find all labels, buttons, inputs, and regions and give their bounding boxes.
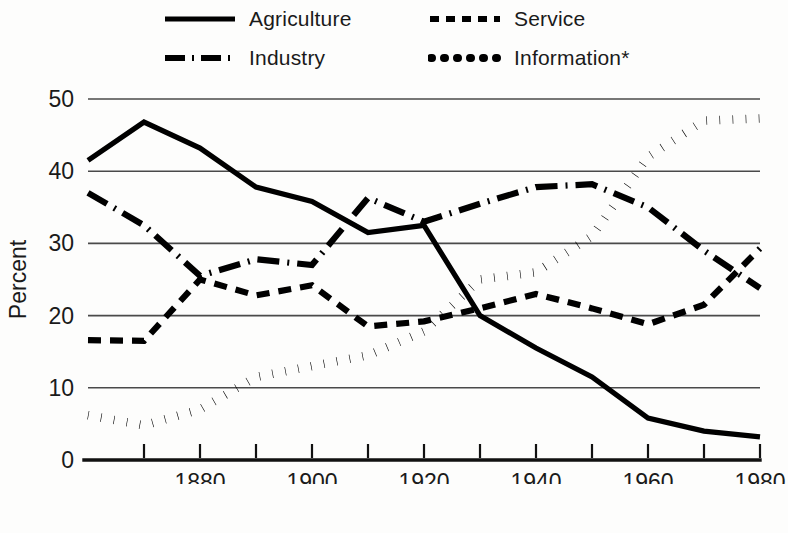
legend-swatch-dashed-icon (428, 8, 504, 30)
legend-item-service: Service (428, 6, 585, 32)
series-line-agriculture (88, 122, 760, 437)
y-axis-title: Percent (5, 239, 31, 319)
legend-label-agriculture: Agriculture (239, 8, 352, 30)
ytick-label-40: 40 (48, 158, 74, 184)
ytick-label-10: 10 (48, 375, 74, 401)
chart-legend: Agriculture Service Industry (0, 0, 788, 88)
xtick-label-1940: 1940 (510, 469, 561, 484)
chart-series-group (88, 118, 760, 436)
legend-label-industry: Industry (239, 47, 325, 69)
chart-axes (84, 444, 760, 460)
legend-swatch-dashdot-icon (163, 47, 239, 69)
chart-figure: Agriculture Service Industry (0, 0, 788, 533)
ytick-label-50: 50 (48, 86, 74, 112)
xtick-label-1920: 1920 (398, 469, 449, 484)
xtick-label-1880: 1880 (174, 469, 225, 484)
legend-item-information: Information* (428, 45, 630, 71)
legend-item-agriculture: Agriculture (163, 6, 352, 32)
legend-item-industry: Industry (163, 45, 325, 71)
chart-canvas: 50403020100Percent1880190019201940196019… (0, 84, 788, 484)
legend-swatch-solid-icon (163, 8, 239, 30)
legend-label-information: Information* (504, 47, 630, 69)
series-line-information- (88, 118, 760, 425)
xtick-label-1980: 1980 (734, 469, 785, 484)
ytick-label-0: 0 (61, 447, 74, 473)
legend-swatch-dotted-icon (428, 47, 504, 69)
xtick-label-1900: 1900 (286, 469, 337, 484)
legend-label-service: Service (504, 8, 585, 30)
ytick-label-20: 20 (48, 303, 74, 329)
chart-plot-area: 50403020100Percent1880190019201940196019… (0, 84, 788, 484)
xtick-label-1960: 1960 (622, 469, 673, 484)
ytick-label-30: 30 (48, 230, 74, 256)
series-line-industry (88, 184, 760, 288)
